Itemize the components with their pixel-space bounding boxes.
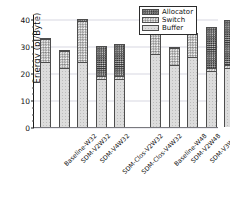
- bar-segment-buffer: [169, 65, 180, 127]
- bar[interactable]: [59, 50, 70, 127]
- bar-segment-switch: [40, 39, 51, 62]
- bar[interactable]: [77, 19, 88, 127]
- bar-segment-buffer: [206, 71, 217, 128]
- y-tick-label: 0: [25, 124, 34, 133]
- bar-segment-buffer: [224, 68, 230, 127]
- y-tick-label: 20: [20, 70, 34, 79]
- legend-item: Switch: [142, 17, 193, 24]
- legend-item: Buffer: [142, 25, 193, 32]
- allocator-swatch-icon: [142, 9, 159, 16]
- bar-segment-switch: [169, 48, 180, 65]
- bar[interactable]: [150, 24, 161, 127]
- legend-item: Allocator: [142, 9, 193, 16]
- bar-segment-buffer: [150, 54, 161, 127]
- bar[interactable]: [169, 47, 180, 127]
- bar[interactable]: [187, 33, 198, 127]
- legend-label: Allocator: [162, 9, 193, 16]
- y-tick-label: 10: [20, 97, 34, 106]
- legend-label: Switch: [162, 17, 185, 24]
- bar-segment-switch: [187, 34, 198, 57]
- bar[interactable]: [40, 38, 51, 127]
- chart-legend: Allocator Switch Buffer: [139, 6, 197, 35]
- bar-segment-buffer: [59, 68, 70, 127]
- gridline: [34, 128, 218, 129]
- bar[interactable]: [224, 20, 230, 127]
- bar-segment-buffer: [114, 79, 125, 127]
- bar-segment-buffer: [96, 79, 107, 127]
- bar[interactable]: [96, 46, 107, 127]
- bar-segment-buffer: [187, 57, 198, 127]
- y-tick-label: 30: [20, 43, 34, 52]
- energy-stacked-bar-chart: Energy (pJ/Byte) 010203040 Baseline-W32S…: [0, 0, 230, 202]
- bar-segment-switch: [59, 51, 70, 68]
- bar-segment-buffer: [40, 62, 51, 127]
- bar-segment-allocator: [224, 20, 230, 64]
- bar-segment-switch: [77, 21, 88, 62]
- legend-label: Buffer: [162, 25, 183, 32]
- bar[interactable]: [114, 44, 125, 127]
- bar-segment-allocator: [114, 44, 125, 76]
- bar-segment-buffer: [77, 62, 88, 127]
- bar-segment-allocator: [96, 46, 107, 76]
- switch-swatch-icon: [142, 17, 159, 24]
- y-tick-label: 40: [20, 16, 34, 25]
- bar[interactable]: [206, 27, 217, 127]
- bar-segment-allocator: [206, 27, 217, 67]
- buffer-swatch-icon: [142, 25, 159, 32]
